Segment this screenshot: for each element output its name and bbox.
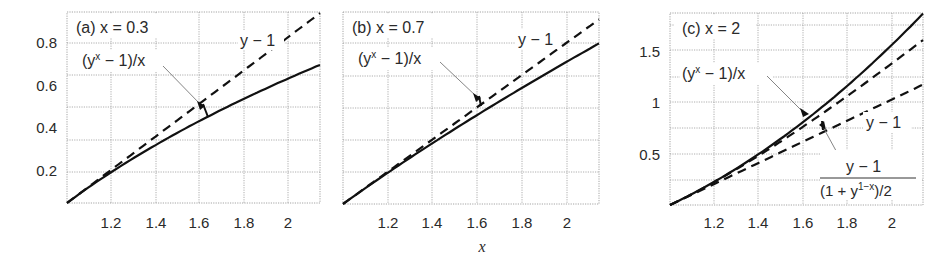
panel-c-xticks: 1.2 1.4 1.6 1.8 2: [704, 214, 897, 231]
panel-a-title: (a) x = 0.3: [76, 19, 149, 36]
ytick-label: 1: [652, 94, 660, 111]
ytick-label: 0.8: [36, 34, 57, 51]
ytick-label: 0.5: [639, 146, 660, 163]
figure: 0.8 0.6 0.4 0.2 1.2 1.4 1.6 1.8 2 (a) x …: [0, 0, 952, 270]
ytick-label: 0.4: [36, 119, 57, 136]
xtick-label: 1.4: [422, 214, 443, 231]
annotation-leader-line: [440, 62, 477, 97]
annotation-leader-line: [767, 76, 803, 112]
xtick-label: 1.8: [837, 214, 858, 231]
xtick-label: 1.8: [512, 214, 533, 231]
label-y-minus-1: y − 1: [240, 32, 275, 49]
panel-b: 1.2 1.4 1.6 1.8 2 x (b) x = 0.7 y − 1 (y…: [343, 12, 599, 255]
label-power-mean: (yx − 1)/x: [82, 51, 145, 69]
panel-a: 0.8 0.6 0.4 0.2 1.2 1.4 1.6 1.8 2 (a) x …: [36, 12, 320, 231]
series-power-mean: [67, 65, 320, 203]
panel-a-yticks: 0.8 0.6 0.4 0.2: [36, 34, 57, 179]
ytick-label: 0.6: [36, 77, 57, 94]
label-y-minus-1: y − 1: [866, 114, 901, 131]
panel-b-title: (b) x = 0.7: [352, 19, 425, 36]
gap-marker: [203, 104, 208, 117]
xtick-label: 1.2: [101, 214, 122, 231]
ytick-label: 0.2: [36, 162, 57, 179]
xtick-label: 1.2: [378, 214, 399, 231]
panel-b-xticks: 1.2 1.4 1.6 1.8 2: [378, 214, 572, 231]
xtick-label: 2: [284, 214, 292, 231]
xtick-label: 2: [888, 214, 896, 231]
label-fraction-numerator: y − 1: [846, 158, 881, 175]
xtick-label: 1.4: [146, 214, 167, 231]
x-axis-label: x: [477, 238, 485, 255]
xtick-label: 1.6: [793, 214, 814, 231]
gap-marker: [822, 121, 823, 130]
label-fraction-denominator: (1 + y1−x)/2: [820, 181, 892, 199]
panel-c: 1.5 1 0.5 1.2 1.4 1.6 1.8 2 (c) x = 2 (y…: [639, 13, 923, 231]
xtick-label: 1.6: [467, 214, 488, 231]
panel-a-xticks: 1.2 1.4 1.6 1.8 2: [101, 214, 293, 231]
panel-c-title: (c) x = 2: [682, 20, 740, 37]
xtick-label: 1.2: [704, 214, 725, 231]
xtick-label: 1.4: [748, 214, 769, 231]
xtick-label: 1.8: [234, 214, 255, 231]
label-power-mean: (yx − 1)/x: [358, 49, 421, 67]
xtick-label: 1.6: [189, 214, 210, 231]
label-power-mean: (yx − 1)/x: [682, 64, 745, 82]
annotation-leader-line: [163, 66, 201, 105]
panel-c-yticks: 1.5 1 0.5: [639, 43, 660, 163]
ytick-label: 1.5: [639, 43, 660, 60]
xtick-label: 2: [563, 214, 571, 231]
label-y-minus-1: y − 1: [518, 31, 553, 48]
arrow-head-icon: [800, 108, 809, 117]
